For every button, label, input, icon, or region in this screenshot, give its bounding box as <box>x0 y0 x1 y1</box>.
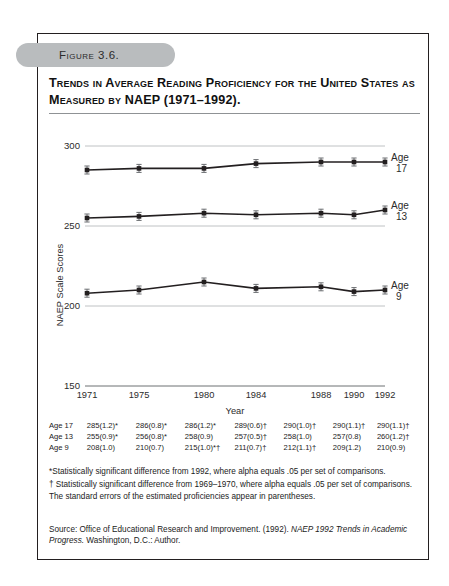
table-row: Age 9208(1.0)210(0.7)215(1.0)*†211(0.7)†… <box>49 443 421 454</box>
data-point <box>254 161 259 166</box>
data-point <box>383 288 388 293</box>
x-axis-tick-label: 1971 <box>77 390 98 400</box>
table-cell: 256(0.8)* <box>136 432 185 443</box>
series-line <box>87 162 385 170</box>
data-point <box>352 213 357 218</box>
data-point <box>319 160 324 165</box>
y-axis-tick-label: 250 <box>64 220 80 231</box>
table-cell: 208(1.0) <box>87 443 136 454</box>
x-axis-tick-label: 1988 <box>311 390 332 400</box>
figure-page: Figure 3.6. Trends in Average Reading Pr… <box>0 0 449 586</box>
data-point <box>137 166 142 171</box>
data-point <box>352 160 357 165</box>
data-point <box>202 280 207 285</box>
data-point <box>202 211 207 216</box>
y-axis-tick-label: 200 <box>64 300 80 311</box>
x-axis-tick-label: 1984 <box>246 390 267 400</box>
series-label-age-value: 17 <box>396 163 408 174</box>
data-point <box>85 291 90 296</box>
series-label-age-value: 13 <box>396 211 408 222</box>
x-axis-tick-label: 1990 <box>344 390 365 400</box>
table-cell: 209(1.2) <box>333 443 377 454</box>
table-cell: 260(1.2)† <box>377 432 421 443</box>
source-note: Source: Office of Educational Research a… <box>49 524 418 547</box>
series-line <box>87 210 385 218</box>
table-cell: 289(0.6)† <box>234 421 283 432</box>
table-cell: 255(0.9)* <box>87 432 136 443</box>
data-point <box>352 289 357 294</box>
table-row-label: Age 17 <box>49 421 87 432</box>
source-suffix: Washington, D.C.: Author. <box>84 536 180 545</box>
table-cell: 286(0.8)* <box>136 421 185 432</box>
footnotes: *Statistically significant difference fr… <box>49 466 418 504</box>
table-cell: 290(1.1)† <box>377 421 421 432</box>
table-row: Age 17285(1.2)*286(0.8)*286(1.2)*289(0.6… <box>49 421 421 432</box>
data-point <box>137 288 142 293</box>
x-axis-tick-label: 1992 <box>375 390 396 400</box>
x-axis-tick-label: 1975 <box>129 390 150 400</box>
y-axis-title: NAEP Scale Scores <box>55 243 65 326</box>
x-axis-tick-label: 1980 <box>194 390 215 400</box>
source-text: Source: Office of Educational Research a… <box>49 524 418 547</box>
series-label-age-9: Age <box>391 280 409 291</box>
series-label-age-17: Age <box>391 152 409 163</box>
table-cell: 257(0.5)† <box>234 432 283 443</box>
footnote-asterisk: *Statistically significant difference fr… <box>49 466 418 477</box>
data-table: Age 17285(1.2)*286(0.8)*286(1.2)*289(0.6… <box>49 421 421 455</box>
table-cell: 258(0.9) <box>185 432 235 443</box>
data-point <box>254 286 259 291</box>
data-point <box>137 214 142 219</box>
table-cell: 286(1.2)* <box>185 421 235 432</box>
series-line <box>87 282 385 293</box>
table-cell: 210(0.7) <box>136 443 185 454</box>
data-point <box>319 211 324 216</box>
table-cell: 257(0.8) <box>333 432 377 443</box>
series-age-17 <box>84 158 387 174</box>
data-point <box>383 160 388 165</box>
table-row-label: Age 9 <box>49 443 87 454</box>
data-point <box>85 216 90 221</box>
series-age-13 <box>84 206 387 222</box>
data-point <box>202 166 207 171</box>
series-label-age-value: 9 <box>396 291 402 302</box>
table-cell: 210(0.9) <box>377 443 421 454</box>
table-cell: 290(1.1)† <box>333 421 377 432</box>
x-axis-title: Year <box>226 406 245 416</box>
data-point <box>254 213 259 218</box>
table-cell: 212(1.1)† <box>284 443 333 454</box>
data-point <box>85 168 90 173</box>
table-row-label: Age 13 <box>49 432 87 443</box>
source-prefix: Source: Office of Educational Research a… <box>49 525 291 534</box>
table-cell: 211(0.7)† <box>234 443 283 454</box>
series-age-9 <box>84 278 387 297</box>
table-cell: 215(1.0)*† <box>185 443 235 454</box>
table-row: Age 13255(0.9)*256(0.8)*258(0.9)257(0.5)… <box>49 432 421 443</box>
table-cell: 258(1.0) <box>284 432 333 443</box>
y-axis-tick-label: 300 <box>64 140 80 151</box>
footnote-dagger: † Statistically significant difference f… <box>49 479 418 502</box>
data-point <box>383 208 388 213</box>
series-label-age-13: Age <box>391 200 409 211</box>
table-cell: 285(1.2)* <box>87 421 136 432</box>
data-point <box>319 285 324 290</box>
table-cell: 290(1.0)† <box>284 421 333 432</box>
